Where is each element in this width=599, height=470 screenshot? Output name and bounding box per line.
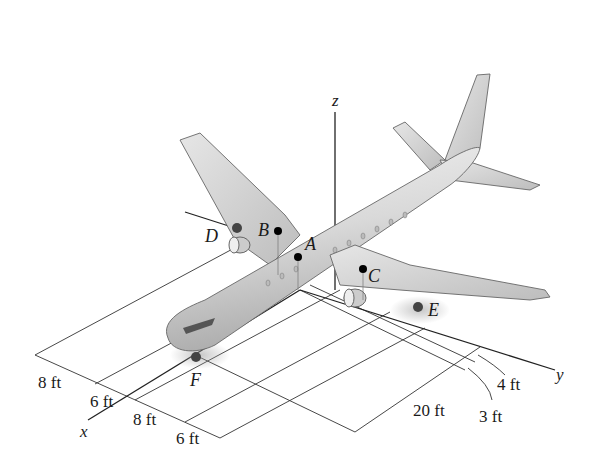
dim-6ft-a: 6 ft (90, 392, 113, 411)
label-D: D (204, 226, 218, 246)
dim-4ft: 4 ft (497, 375, 520, 394)
point-B (274, 227, 282, 235)
point-A (294, 253, 302, 261)
airplane-diagram: z x y D B A C E F 8 ft 6 ft 8 ft 6 ft 20… (0, 0, 599, 470)
x-axis-label: x (79, 422, 88, 441)
engine-left (229, 237, 250, 253)
dim-3ft: 3 ft (479, 407, 502, 426)
dim-20ft: 20 ft (413, 401, 445, 420)
label-C: C (368, 266, 381, 286)
dim-8ft-b: 8 ft (133, 410, 156, 429)
wheel-D (232, 223, 242, 233)
dim-8ft-a: 8 ft (38, 373, 61, 392)
wheel-F (191, 352, 201, 362)
y-axis-label: y (554, 365, 564, 384)
dim-6ft-b: 6 ft (176, 429, 199, 448)
label-F: F (189, 370, 202, 390)
wheel-E (413, 302, 423, 312)
label-A: A (304, 234, 317, 254)
point-C (359, 265, 367, 273)
left-stabilizer (393, 122, 445, 170)
label-B: B (258, 220, 269, 240)
z-axis-label: z (331, 91, 339, 110)
label-E: E (427, 300, 439, 320)
diagram-canvas: z x y D B A C E F 8 ft 6 ft 8 ft 6 ft 20… (0, 0, 599, 470)
